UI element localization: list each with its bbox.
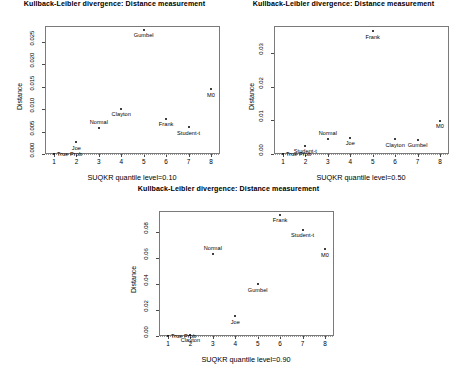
y-tick-label: 0.06 xyxy=(137,251,155,257)
panel-quantile-0-90: Kullback-Leibler divergence: Distance me… xyxy=(114,185,343,373)
data-point xyxy=(302,229,304,231)
data-point-label: Student-t xyxy=(291,232,314,238)
x-tick-label: 7 xyxy=(187,158,191,165)
data-point-label: Joe xyxy=(346,140,355,146)
data-point xyxy=(212,253,214,255)
panel-quantile-0-50: Kullback-Leibler divergence: Distance me… xyxy=(229,0,458,190)
data-point-label: Gumbel xyxy=(248,287,268,293)
data-point-label: Gumbel xyxy=(408,142,428,148)
data-point-label: Normal xyxy=(90,119,108,125)
y-tick-label: 0.00 xyxy=(137,329,155,335)
data-point xyxy=(349,137,351,139)
y-tick-label: 0.03 xyxy=(252,46,270,52)
data-point xyxy=(98,127,100,129)
data-point xyxy=(188,126,190,128)
y-tick-mark xyxy=(156,232,159,233)
x-tick-label: 3 xyxy=(97,158,101,165)
data-point xyxy=(167,335,169,337)
y-tick-mark xyxy=(156,284,159,285)
x-tick-label: 2 xyxy=(75,158,79,165)
y-tick-mark xyxy=(42,42,45,43)
data-point-label: Frank xyxy=(159,121,174,127)
data-point-label: True Prob xyxy=(57,151,82,157)
data-point-label: Normal xyxy=(204,245,222,251)
x-tick-label: 1 xyxy=(281,158,285,165)
y-tick-mark xyxy=(156,310,159,311)
data-point xyxy=(53,153,55,155)
x-tick-label: 7 xyxy=(416,158,420,165)
y-tick-mark xyxy=(156,336,159,337)
data-point-label: Joe xyxy=(72,145,81,151)
plot-area xyxy=(274,26,449,154)
y-axis-label: Distance xyxy=(248,83,255,110)
data-point-label: Clayton xyxy=(112,111,131,117)
data-point xyxy=(189,334,191,336)
y-tick-label: 0.000 xyxy=(23,147,41,153)
data-point xyxy=(372,30,374,32)
data-point-label: Gumbel xyxy=(134,32,154,38)
data-point-label: M0 xyxy=(207,92,215,98)
data-point xyxy=(324,248,326,250)
data-point-label: Student-t xyxy=(294,148,317,154)
data-point-label: M0 xyxy=(436,123,444,129)
x-tick-label: 8 xyxy=(438,158,442,165)
data-point xyxy=(282,153,284,155)
y-tick-mark xyxy=(271,154,274,155)
data-point-label: Joe xyxy=(231,319,240,325)
data-point xyxy=(143,29,145,31)
data-point-label: Clayton xyxy=(181,337,200,343)
y-tick-label: 0.00 xyxy=(252,147,270,153)
data-point xyxy=(75,141,77,143)
data-point-label: Normal xyxy=(319,130,337,136)
x-tick-label: 3 xyxy=(211,340,215,347)
x-tick-label: 1 xyxy=(52,158,56,165)
figure-canvas: Kullback-Leibler divergence: Distance me… xyxy=(0,0,458,373)
y-tick-label: 0.08 xyxy=(137,225,155,231)
x-tick-label: 8 xyxy=(209,158,213,165)
x-tick-label: 3 xyxy=(326,158,330,165)
data-point xyxy=(279,214,281,216)
plot-area xyxy=(159,211,334,336)
panel-quantile-0-10: Kullback-Leibler divergence: Distance me… xyxy=(0,0,229,190)
y-tick-mark xyxy=(156,258,159,259)
x-axis-label: SUQKR quantile level=0.10 xyxy=(87,173,176,182)
y-tick-label: 0.04 xyxy=(137,277,155,283)
y-tick-label: 0.005 xyxy=(23,125,41,131)
data-point xyxy=(234,315,236,317)
x-tick-label: 7 xyxy=(301,340,305,347)
data-point-label: Clayton xyxy=(385,142,404,148)
y-tick-mark xyxy=(271,87,274,88)
y-tick-label: 0.020 xyxy=(23,57,41,63)
x-tick-label: 5 xyxy=(256,340,260,347)
y-tick-label: 0.010 xyxy=(23,102,41,108)
data-point xyxy=(210,88,212,90)
data-point xyxy=(439,120,441,122)
y-tick-mark xyxy=(42,87,45,88)
x-tick-label: 8 xyxy=(323,340,327,347)
x-tick-label: 1 xyxy=(166,340,170,347)
y-axis-label: Distance xyxy=(130,266,137,293)
x-tick-label: 6 xyxy=(393,158,397,165)
data-point-label: Frank xyxy=(273,217,288,223)
x-axis-label: SUQKR quantile level=0.50 xyxy=(316,173,405,182)
data-point xyxy=(120,108,122,110)
x-tick-label: 6 xyxy=(164,158,168,165)
panel-title: Kullback-Leibler divergence: Distance me… xyxy=(229,0,458,8)
panel-title: Kullback-Leibler divergence: Distance me… xyxy=(0,0,229,8)
panel-title: Kullback-Leibler divergence: Distance me… xyxy=(114,185,343,193)
x-tick-label: 5 xyxy=(371,158,375,165)
x-axis-label: SUQKR quantile level=0.90 xyxy=(201,355,290,364)
x-tick-label: 4 xyxy=(120,158,124,165)
y-tick-mark xyxy=(42,64,45,65)
data-point xyxy=(327,138,329,140)
y-tick-label: 0.02 xyxy=(252,80,270,86)
x-tick-label: 4 xyxy=(234,340,238,347)
data-point-label: Frank xyxy=(365,34,380,40)
data-point xyxy=(417,139,419,141)
y-tick-mark xyxy=(271,53,274,54)
data-point-label: M0 xyxy=(321,252,329,258)
x-tick-label: 5 xyxy=(142,158,146,165)
data-point xyxy=(165,118,167,120)
data-point-label: Student-t xyxy=(177,130,200,136)
y-tick-label: 0.01 xyxy=(252,113,270,119)
